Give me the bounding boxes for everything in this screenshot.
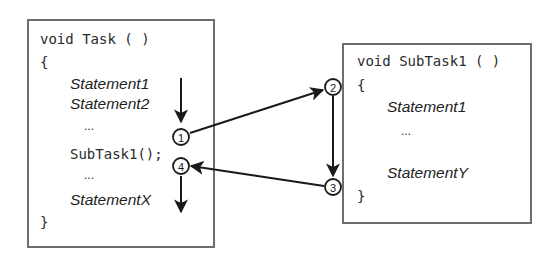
subtask-function-box: void SubTask1 ( ) { Statement1 ... State…	[343, 44, 531, 223]
task-ellipsis-2: ...	[84, 168, 94, 182]
subtask-statement-1: Statement1	[387, 98, 466, 115]
task-open-brace: {	[40, 54, 48, 70]
task-statement-2: Statement2	[70, 95, 150, 112]
step-marker-2: 2	[325, 79, 341, 95]
control-flow-diagram: void Task ( ) { Statement1 Statement2 ..…	[0, 0, 558, 254]
subtask-statement-y: StatementY	[387, 164, 470, 181]
task-subtask-call: SubTask1();	[70, 146, 163, 162]
subtask-box-frame	[343, 44, 531, 223]
subtask-open-brace: {	[357, 77, 365, 93]
step-number: 4	[178, 161, 184, 173]
task-signature: void Task ( )	[40, 31, 150, 47]
task-close-brace: }	[40, 214, 48, 230]
step-marker-4: 4	[173, 158, 189, 174]
step-number: 2	[330, 82, 336, 94]
task-ellipsis-1: ...	[84, 119, 94, 133]
subtask-ellipsis: ...	[401, 124, 411, 138]
step-number: 1	[178, 132, 184, 144]
step-marker-3: 3	[325, 179, 341, 195]
step-marker-1: 1	[173, 129, 189, 145]
step-number: 3	[330, 182, 336, 194]
task-statement-x: StatementX	[70, 191, 152, 208]
subtask-signature: void SubTask1 ( )	[357, 53, 500, 69]
task-statement-1: Statement1	[70, 75, 149, 92]
subtask-close-brace: }	[357, 188, 365, 204]
